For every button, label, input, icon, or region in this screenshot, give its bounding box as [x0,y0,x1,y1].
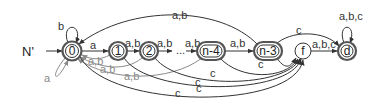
edge-label-f-d: a,b,c [312,38,336,50]
self-loop-d [342,27,352,43]
state-1: 1 [109,42,127,60]
edge-label-self-d: a,b,c [339,10,363,22]
edge-label-n3-0: a,b [172,9,187,21]
edge-label-2-0: a,b [100,63,115,75]
edge-label-0-1: a [90,39,97,51]
edge-label-0-f: c [175,87,181,99]
edge-label-n4-0: a,b [124,70,139,82]
state-label-0: 0 [69,44,76,58]
state-d: d [338,42,356,60]
edge-label-2-dots: a,b [157,37,172,49]
edge-label-self-0-a: a [44,72,51,84]
diagram-title: N' [22,44,34,59]
self-loop-0-a [55,57,68,76]
state-0: 0 [63,42,82,61]
edge-label-self-0-b: b [58,20,64,32]
state-label-2: 2 [146,44,153,58]
state-n-4: n-4 [197,42,225,60]
edge-label-n4-n3: a,b [230,37,245,49]
edge-label-n4-f: c [210,67,216,79]
state-label-1: 1 [115,44,122,58]
edge-label-n3-d: c [296,24,302,36]
ellipsis: ... [176,44,185,56]
automaton-diagram: N' b a a,b a a,b a,b ... a,b a,b a,b a,b… [0,0,385,110]
state-f: f [295,43,311,59]
state-label-n-4: n-4 [202,44,220,58]
edge-label-1-f: c [196,82,202,94]
state-n-3: n-3 [254,42,282,60]
state-2: 2 [140,42,158,60]
state-label-d: d [344,44,351,58]
state-label-n-3: n-3 [259,44,277,58]
